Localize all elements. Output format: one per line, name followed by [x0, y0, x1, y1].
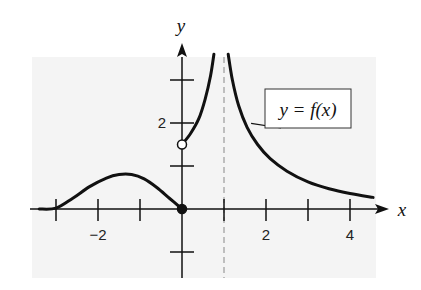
x-tick-label: 2 [262, 226, 270, 243]
function-label: y = f(x) [277, 99, 336, 121]
function-graph: −2242 y = f(x) y x [0, 0, 421, 290]
x-tick-label: −2 [89, 226, 106, 243]
y-tick-label: 2 [158, 114, 166, 131]
closed-dot [178, 205, 187, 214]
x-axis-label: x [397, 199, 407, 220]
y-axis-arrow-icon [177, 43, 187, 57]
open-dot [178, 140, 187, 149]
x-tick-label: 4 [346, 226, 354, 243]
y-axis-label: y [175, 15, 186, 36]
function-label-box: y = f(x) [251, 89, 351, 128]
